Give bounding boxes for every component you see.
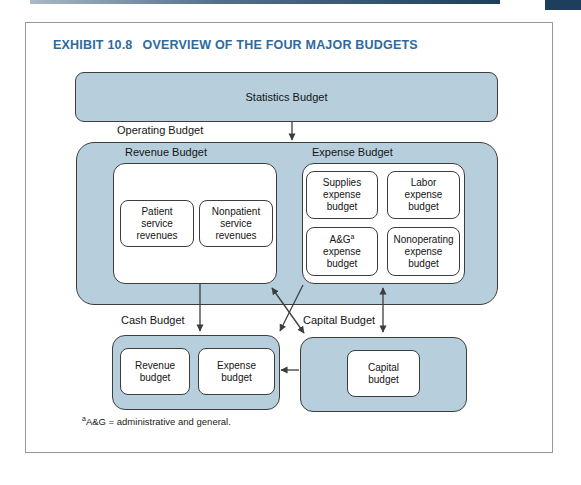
textbook-page: EXHIBIT 10.8OVERVIEW OF THE FOUR MAJOR B… [0, 0, 581, 485]
expense-budget-group-label: Expense Budget [312, 146, 393, 158]
ag-expense-budget-box: A&Ga expense budget [306, 227, 378, 276]
revenue-budget-group-label: Revenue Budget [125, 146, 207, 158]
nonpatient-service-revenues-box: Nonpatient service revenues [199, 200, 273, 247]
cash-budget-label: Cash Budget [121, 314, 185, 326]
capital-budget-inner-box: Capital budget [347, 350, 420, 397]
operating-budget-label: Operating Budget [117, 124, 203, 136]
footnote: aA&G = administrative and general. [82, 415, 231, 427]
exhibit-number: EXHIBIT 10.8 [53, 38, 133, 52]
footnote-text: A&G = administrative and general. [86, 416, 231, 427]
page-header-corner-block [545, 0, 581, 10]
patient-service-revenues-box: Patient service revenues [120, 200, 194, 247]
exhibit-heading: OVERVIEW OF THE FOUR MAJOR BUDGETS [143, 38, 418, 52]
cash-revenue-budget-box: Revenue budget [120, 348, 190, 395]
footnote-reference-a: a [351, 232, 355, 239]
supplies-expense-budget-box: Supplies expense budget [306, 171, 378, 219]
exhibit-title: EXHIBIT 10.8OVERVIEW OF THE FOUR MAJOR B… [53, 38, 418, 52]
statistics-budget-box: Statistics Budget [75, 72, 498, 122]
statistics-budget-label: Statistics Budget [246, 91, 328, 103]
labor-expense-budget-box: Labor expense budget [387, 171, 460, 219]
nonoperating-expense-budget-box: Nonoperating expense budget [387, 227, 460, 276]
page-header-rule [30, 0, 500, 4]
cash-expense-budget-box: Expense budget [198, 348, 275, 395]
capital-budget-label: Capital Budget [303, 314, 375, 326]
